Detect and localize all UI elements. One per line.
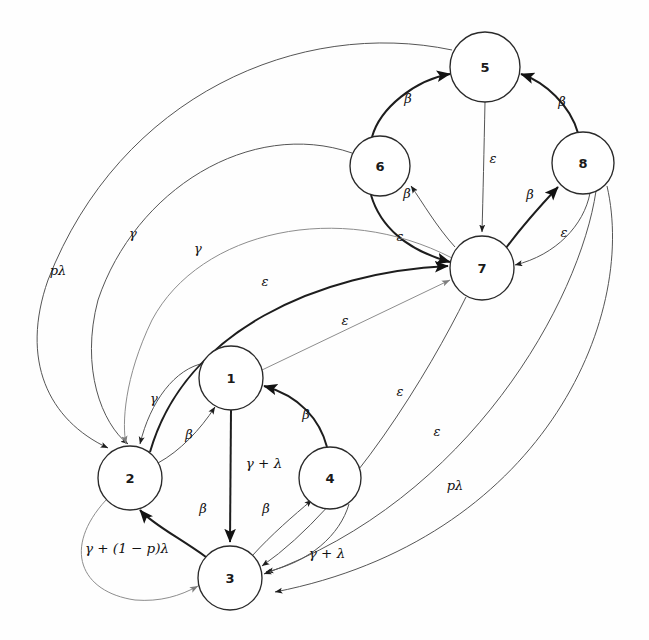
diagram-canvas: 1 2 3 4 5 6 7 — [0, 0, 649, 640]
edge-layer — [37, 43, 612, 600]
node-6[interactable]: 6 — [350, 136, 410, 196]
node-7-label: 7 — [477, 261, 486, 276]
edge-label-7-6: β — [402, 186, 411, 201]
edge-label-4-3: γ + λ — [309, 545, 346, 561]
edge-8-7 — [515, 193, 590, 265]
edge-7-6 — [411, 186, 455, 247]
edge-label-1-7: ε — [342, 313, 349, 328]
edge-label-8-7: ε — [561, 225, 568, 240]
node-4[interactable]: 4 — [299, 447, 361, 509]
node-2[interactable]: 2 — [98, 446, 162, 510]
edge-5-7 — [482, 102, 485, 232]
edge-label-7-8: β — [525, 187, 534, 202]
node-2-label: 2 — [125, 471, 134, 486]
edge-8-3 — [264, 191, 596, 574]
node-8-label: 8 — [578, 156, 587, 171]
edge-label-8-3-plambda: pλ — [447, 478, 464, 493]
node-6-label: 6 — [375, 159, 384, 174]
edge-3-4 — [252, 500, 312, 556]
edge-label-5-2: pλ — [50, 263, 67, 278]
edge-8-5 — [521, 74, 578, 133]
node-1[interactable]: 1 — [199, 346, 263, 410]
edge-7-2 — [124, 228, 452, 444]
edge-label-3-2: β — [198, 501, 207, 516]
node-8[interactable]: 8 — [552, 132, 614, 194]
edge-label-7-3: ε — [397, 384, 404, 399]
edge-1-7 — [262, 280, 450, 370]
edge-label-7-2: γ — [194, 241, 202, 256]
node-5-label: 5 — [480, 60, 489, 75]
edge-label-6-5: β — [403, 91, 412, 106]
edge-label-8-3: ε — [434, 424, 441, 439]
node-3[interactable]: 3 — [198, 546, 262, 610]
edge-label-2-3: γ + (1 − p)λ — [85, 540, 169, 556]
edge-label-6-7: ε — [397, 229, 404, 244]
edge-6-7 — [371, 195, 450, 262]
edge-6-5 — [372, 74, 450, 137]
edge-label-3-4: β — [261, 501, 270, 516]
node-layer: 1 2 3 4 5 6 7 — [98, 32, 614, 610]
node-4-label: 4 — [325, 471, 334, 486]
edge-label-6-2: γ — [129, 226, 137, 241]
edge-label-4-1: β — [301, 407, 310, 422]
edge-label-1-3: γ + λ — [246, 455, 283, 471]
edge-2-7 — [150, 266, 448, 452]
node-5[interactable]: 5 — [450, 32, 520, 102]
edge-label-2-7: ε — [262, 274, 269, 289]
node-3-label: 3 — [225, 571, 234, 586]
edge-label-5-7: ε — [490, 151, 497, 166]
edge-4-3 — [266, 504, 349, 572]
edge-label-1-2: γ — [150, 391, 158, 406]
edge-4-1 — [264, 386, 327, 447]
edge-1-3 — [230, 410, 231, 542]
node-7[interactable]: 7 — [450, 236, 514, 300]
edge-label-8-5: β — [557, 94, 566, 109]
state-transition-diagram: 1 2 3 4 5 6 7 — [0, 0, 649, 640]
edge-label-2-1: β — [184, 427, 193, 442]
node-1-label: 1 — [226, 371, 235, 386]
edge-8-3-plambda — [275, 186, 613, 592]
